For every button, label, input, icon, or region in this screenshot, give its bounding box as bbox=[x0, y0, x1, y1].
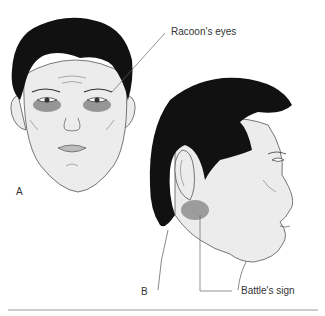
racoon-eyes-annotation: Racoon's eyes bbox=[171, 26, 236, 37]
panel-a-label: A bbox=[16, 186, 23, 197]
frontal-face-illustration bbox=[11, 18, 135, 192]
profile-head-illustration bbox=[150, 78, 293, 290]
panel-b-label: B bbox=[141, 286, 148, 297]
battles-sign-bruise bbox=[181, 200, 209, 220]
battles-sign-annotation: Battle's sign bbox=[241, 285, 295, 296]
diagram-canvas bbox=[0, 0, 325, 316]
